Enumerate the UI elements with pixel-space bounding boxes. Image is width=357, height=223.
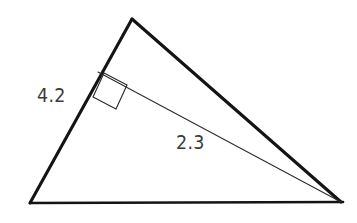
measurement-label-left-side: 4.2 bbox=[37, 86, 66, 105]
triangle-left-edge bbox=[30, 19, 132, 203]
triangle-base-edge bbox=[30, 202, 343, 203]
geometry-figure: 4.2 2.3 bbox=[0, 0, 357, 223]
triangle-right-edge bbox=[132, 19, 341, 202]
measurement-label-altitude: 2.3 bbox=[176, 133, 205, 152]
triangle-diagram-svg bbox=[0, 0, 357, 223]
altitude-segment bbox=[98, 72, 341, 202]
